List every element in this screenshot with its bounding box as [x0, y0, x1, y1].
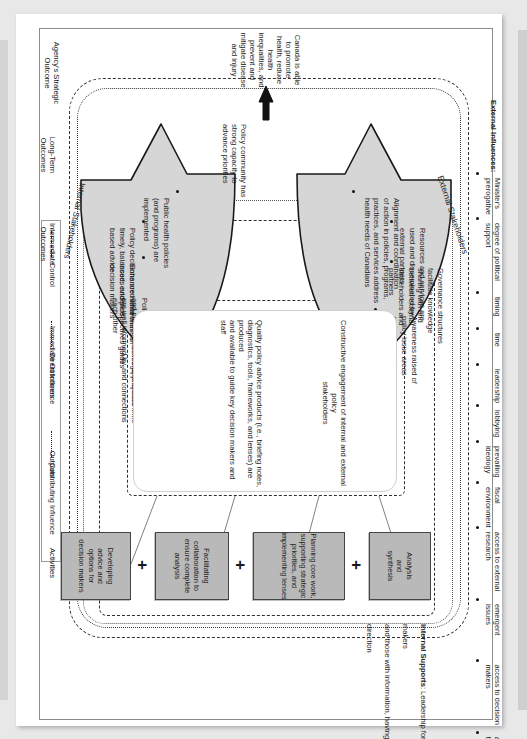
external-influence-label: access to external research [484, 532, 501, 594]
row-label-immediate: Immediate Outcomes [48, 324, 57, 400]
bullet-dot-icon [476, 481, 479, 484]
row-label-intermediate: Intermediate Outcomes [38, 206, 57, 282]
row-label-outputs: Outputs [48, 434, 57, 494]
activity-plus-1: + [348, 560, 365, 570]
scanned-page: External Stakeholders Internal Stakehold… [0, 0, 527, 739]
page-right-edge-shadow [518, 30, 527, 710]
bullet-dot-icon [476, 363, 479, 366]
rotated-diagram-wrapper: External Stakeholders Internal Stakehold… [35, 24, 497, 724]
activity-label-1: Analysis and synthesis [386, 523, 415, 609]
external-influence-label: time [492, 333, 501, 359]
external-influence-label: prevailing ideology [484, 446, 501, 477]
bullet-dot-icon [476, 731, 479, 734]
activity-box-facilitating[interactable]: Facilitating collaboration to ensure com… [155, 532, 229, 600]
row-label-activities: Activities [48, 530, 57, 596]
external-influence-label: timing [492, 297, 501, 323]
bullet-dot-icon [476, 291, 479, 294]
bullet-dot-icon [476, 217, 479, 220]
lower-bullet-1: Public health policies (and programs) ar… [142, 198, 171, 308]
outputs-text: Quality policy advice products (i.e., br… [218, 320, 263, 488]
page-left-edge-shadow [0, 40, 8, 700]
immediate-outcome-text: Constructive engagement of internal and … [320, 320, 347, 486]
activity-box-planning[interactable]: Planning core work, supporting strategic… [253, 532, 345, 600]
external-influence-label: access to decision makers [484, 665, 501, 727]
paper-sheet: External Stakeholders Internal Stakehold… [16, 14, 502, 726]
row-label-agency: Agency's Strategic Outcome [42, 38, 61, 108]
long-term-outcome-text: Policy community has strong capacity to … [220, 124, 247, 204]
external-influence-label: degree of political support [484, 223, 501, 287]
activity-plus-3: + [134, 560, 151, 570]
external-influence-label: fiscal environment [484, 487, 501, 522]
internal-supports: Internal Supports: Leadership for sharin… [363, 624, 435, 739]
external-influence-label: leadership [492, 369, 501, 400]
strategic-outcome-text: Canada is able to promote health, reduce… [229, 32, 301, 88]
internal-supports-label: Internal Supports [419, 624, 428, 687]
bullet-dot-icon [476, 526, 479, 529]
activity-plus-2: + [232, 560, 249, 570]
bullet-dot-icon [476, 327, 479, 330]
external-influence-label: Minister's prerogative [484, 178, 501, 213]
external-influence-label: lobbying [492, 410, 501, 436]
outputs-card [133, 310, 397, 492]
external-influences-heading: External Influences: [488, 100, 497, 172]
activity-label-2: Planning core work, supporting strategic… [280, 523, 319, 609]
activity-box-analysis[interactable]: Analysis and synthesis [369, 532, 431, 600]
activity-label-3: Facilitating collaboration to ensure com… [173, 523, 212, 609]
external-influences: External Influences: Minister's prerogat… [469, 100, 499, 640]
bullet-dot-icon [476, 172, 479, 175]
diagram-canvas: External Stakeholders Internal Stakehold… [35, 24, 497, 724]
bullet-dot-icon [476, 404, 479, 407]
activity-label-4: Developing advice and options for decisi… [77, 523, 116, 609]
activity-box-developing[interactable]: Developing advice and options for decisi… [61, 532, 131, 600]
bullet-dot-icon [476, 659, 479, 662]
bullet-dot-icon [476, 598, 479, 601]
bullet-dot-icon [476, 440, 479, 443]
row-label-longterm: Long-Term Outcomes [38, 120, 57, 190]
external-influence-label: emergent issues [484, 604, 501, 655]
